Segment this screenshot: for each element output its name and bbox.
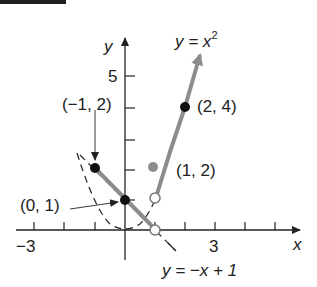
tick-label-5: 5 <box>108 68 117 85</box>
tick-label-3: 3 <box>209 238 218 255</box>
point-label-neg1-2: (−1, 2) <box>62 96 112 113</box>
y-ticks <box>125 76 135 200</box>
point-1-1-open <box>150 193 160 203</box>
point-label-0-1: (0, 1) <box>20 197 60 214</box>
tick-label-neg3: −3 <box>16 238 35 255</box>
x-axis-label: x <box>293 236 302 253</box>
equation-parabola-exponent: 2 <box>211 29 217 41</box>
piecewise-function-graph <box>0 0 317 287</box>
pointer-y-neg-x-plus-1 <box>168 243 176 251</box>
point-1-2 <box>148 162 158 172</box>
point-label-2-4: (2, 4) <box>197 98 237 115</box>
point-2-4 <box>180 102 190 112</box>
equation-parabola: y = x2 <box>175 30 218 50</box>
equation-parabola-base: y = x <box>175 32 211 51</box>
point-1-0-open <box>150 225 160 235</box>
point-0-1 <box>120 195 130 205</box>
y-axis-label: y <box>104 38 113 55</box>
equation-line: y = −x + 1 <box>162 262 237 279</box>
point-label-1-2: (1, 2) <box>176 162 216 179</box>
pointer-0-1 <box>70 202 118 209</box>
point-neg1-2 <box>90 163 100 173</box>
